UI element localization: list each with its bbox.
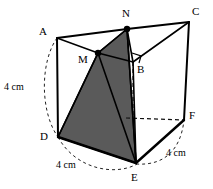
vertex-label-E: E [131, 172, 138, 183]
vertex-label-B: B [137, 64, 144, 75]
vertex-label-N: N [122, 8, 130, 19]
edge-A-D [57, 38, 58, 137]
vertex-dot-N [124, 26, 130, 32]
vertex-label-A: A [39, 26, 47, 37]
dimension-label-ad: 4 cm [4, 82, 24, 92]
arc-measure-AD [44, 38, 58, 137]
vertex-label-M: M [78, 54, 88, 65]
edge-C-F [184, 22, 189, 120]
dimension-label-de: 4 cm [56, 160, 76, 170]
edge-A-M [57, 38, 98, 53]
vertex-label-F: F [189, 110, 195, 121]
vertex-label-D: D [40, 131, 48, 142]
vertex-label-C: C [192, 6, 199, 17]
dimension-label-ef: 4 cm [166, 148, 186, 158]
prism-drawing [0, 0, 213, 189]
vertex-dot-M [95, 50, 101, 56]
edge-A-N [57, 29, 127, 38]
shaded-cross-section [58, 29, 136, 163]
geometry-figure: A N C M B D E F 4 cm 4 cm 4 cm [0, 0, 213, 189]
